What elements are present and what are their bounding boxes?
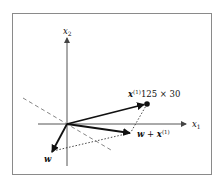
w-vector-label: w [44, 154, 52, 164]
dotted-x1-to-sum [131, 104, 147, 132]
data-point-x1 [144, 101, 150, 107]
perceptron-update-diagram: x2 x1 x(1)125 × 30 w + x(1) w [0, 0, 223, 190]
x2-axis-label: x2 [63, 26, 72, 37]
x1-vector-label: x(1)125 × 30 [127, 89, 180, 100]
vector-x1 [67, 105, 144, 125]
x1-axis-label: x1 [192, 119, 201, 130]
w-plus-x1-label: w + x(1) [137, 129, 170, 140]
vector-w-plus-x1 [67, 124, 130, 133]
dotted-w-to-sum [53, 133, 130, 151]
vector-w [52, 124, 67, 152]
